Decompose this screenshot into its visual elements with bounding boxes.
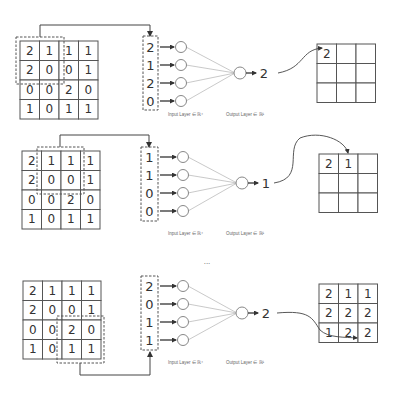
feature-map-cell [356,64,376,84]
weight-edge [188,183,237,211]
output-layer-label: Output Layer ∈ ℝ¹ [226,360,265,365]
matrix-cell-value: 0 [26,83,34,97]
feature-map-cell [356,44,376,64]
feature-map: 21 [319,154,378,213]
output-node [236,307,248,319]
output-value: 2 [262,306,270,321]
feature-map-cell [317,83,337,103]
output-layer-label: Output Layer ∈ ℝ¹ [226,231,265,236]
matrix-cell-value: 2 [26,63,34,77]
matrix-cell-value: 0 [29,323,37,337]
weight-edge [186,73,235,101]
feature-map-value: 1 [325,326,333,340]
diagram-canvas: 211120010020101121202Input Layer ∈ ℝ⁴Out… [0,0,401,396]
vector-value: 2 [146,40,154,55]
step-2: 211120010020101111001Input Layer ∈ ℝ⁴Out… [22,135,378,236]
input-matrix: 2111200100201011 [22,151,100,229]
matrix-cell-value: 0 [45,102,53,116]
matrix-cell-value: 0 [48,342,56,356]
feature-map-value: 2 [325,287,333,301]
feature-map-value: 2 [344,306,352,320]
feature-map-value: 1 [344,287,352,301]
vector-value: 1 [145,150,153,165]
input-node [176,96,187,107]
matrix-cell-value: 1 [29,342,37,356]
matrix-cell-value: 1 [86,212,94,226]
matrix-cell-value: 0 [84,83,92,97]
feature-map-cell [337,64,357,84]
matrix-cell-value: 0 [86,193,94,207]
vector-value: 1 [145,333,153,348]
input-node [176,78,187,89]
matrix-cell-value: 0 [47,173,55,187]
matrix-cell-value: 1 [47,154,55,168]
feature-map-cell [319,193,339,213]
input-node [176,42,187,53]
matrix-cell-value: 2 [67,193,75,207]
step-1: 211120010020101121202Input Layer ∈ ℝ⁴Out… [16,25,376,119]
matrix-cell-value: 0 [68,303,76,317]
feature-map-cell [317,64,337,84]
matrix-cell-value: 1 [67,212,75,226]
feature-map: 2 [317,44,376,103]
weight-edge [188,286,237,313]
matrix-cell-value: 1 [28,212,36,226]
matrix-cell-value: 1 [84,102,92,116]
feature-map-cell [337,44,357,64]
input-layer-label: Input Layer ∈ ℝ⁴ [168,112,203,117]
matrix-cell-value: 0 [47,193,55,207]
matrix-cell-value: 0 [65,63,73,77]
input-node [178,299,189,310]
output-node [236,177,248,189]
matrix-cell-value: 1 [84,44,92,58]
result-curve-arrow [278,48,322,73]
matrix-cell-value: 1 [84,63,92,77]
matrix-cell-value: 2 [29,284,37,298]
feature-map-cell [319,174,339,194]
weight-edge [188,313,237,340]
feature-map-value: 2 [364,326,372,340]
matrix-cell-value: 2 [29,303,37,317]
input-node [178,170,189,181]
matrix-cell-value: 1 [87,342,95,356]
input-node [178,317,189,328]
feature-map-cell [339,174,359,194]
step-9: 211120010020101120112Input Layer ∈ ℝ⁴Out… [23,276,378,375]
feature-map-cell [356,83,376,103]
matrix-cell-value: 1 [65,44,73,58]
vector-value: 1 [145,315,153,330]
vector-value: 0 [145,297,153,312]
feature-map-value: 2 [323,47,331,61]
steps-group: 211120010020101121202Input Layer ∈ ℝ⁴Out… [16,25,378,375]
input-matrix: 2111200100201011 [20,41,98,119]
output-value: 1 [262,176,270,191]
matrix-cell-value: 1 [65,102,73,116]
feature-map-value: 2 [364,306,372,320]
output-value: 2 [260,66,268,81]
input-node [178,206,189,217]
matrix-cell-value: 1 [26,102,34,116]
feature-map-value: 1 [364,287,372,301]
matrix-cell-value: 1 [45,44,53,58]
vector-value: 0 [146,94,154,109]
matrix-cell-value: 0 [87,323,95,337]
weight-edge [186,73,235,83]
matrix-cell-value: 0 [48,323,56,337]
matrix-cell-value: 0 [67,173,75,187]
input-node [176,60,187,71]
matrix-cell-value: 0 [28,193,36,207]
matrix-cell-value: 2 [28,154,36,168]
feature-map-value: 1 [344,157,352,171]
matrix-cell-value: 1 [87,303,95,317]
feature-map-value: 2 [325,306,333,320]
vector-value: 0 [145,204,153,219]
vector-value: 1 [145,168,153,183]
input-node [178,335,189,346]
vector-value: 2 [146,76,154,91]
input-node [178,152,189,163]
vector-value: 0 [145,186,153,201]
matrix-cell-value: 1 [48,284,56,298]
output-node [234,67,246,79]
vector-value: 1 [146,58,154,73]
matrix-cell-value: 1 [68,342,76,356]
